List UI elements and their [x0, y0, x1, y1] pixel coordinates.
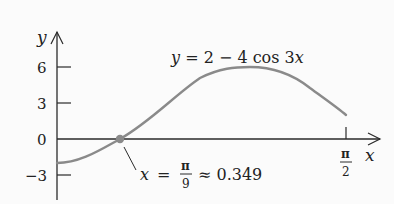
equation-rhs: = 2 − 4 cos 3 — [180, 48, 295, 67]
chart: y x 6 3 0 −3 π 2 y = 2 − 4 cos 3x x = π … — [0, 0, 394, 204]
x-tick-two: 2 — [342, 165, 350, 179]
root-leader-line — [124, 147, 136, 170]
x-axis-label: x — [365, 145, 375, 165]
x-tick-pi: π — [341, 147, 350, 161]
y-axis-label: y — [36, 27, 47, 47]
root-approx-value: ≈ 0.349 — [198, 165, 262, 184]
y-tick-label-m3: −3 — [25, 167, 47, 185]
root-equals: = — [157, 165, 170, 184]
y-tick-label-0: 0 — [37, 131, 47, 149]
root-x: x — [140, 165, 149, 184]
root-nine: 9 — [182, 177, 190, 191]
y-tick-label-3: 3 — [37, 95, 47, 113]
y-tick-label-6: 6 — [37, 59, 47, 77]
curve-2-minus-4cos3x — [57, 67, 346, 163]
equation-var: x — [295, 48, 304, 67]
root-pi: π — [181, 159, 190, 173]
root-point — [116, 135, 124, 143]
equation-label: y = 2 − 4 cos 3x — [170, 48, 304, 67]
